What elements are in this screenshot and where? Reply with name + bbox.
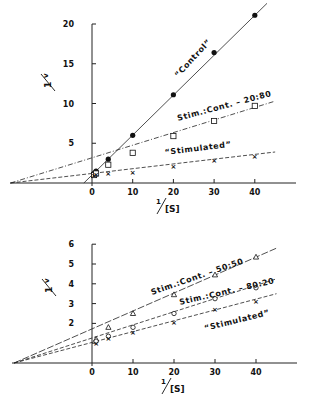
svg-text:[S]: [S] [165,204,180,214]
x-tick-label: 30 [209,368,221,377]
data-point-x: × [130,329,136,337]
data-point-open-square [171,133,176,138]
data-point-open-circle [172,311,176,315]
y-tick-label: 20 [63,20,75,29]
label-control: “Control” [173,37,213,79]
bottom-chart: 01020304023456 ×××××× 1 v 1 [S] Stim.:Co… [12,240,297,394]
data-point-x: × [211,157,217,165]
bottom-x-axis-label: 1 [S] [161,378,185,394]
top-chart: 0102030405101520 ××××××× 1 v 1 [S] “Cont… [10,3,296,214]
label-stim-cont-20-80: Stim.:Cont. – 20:80 [176,89,272,123]
data-point-x: × [93,171,99,179]
top-x-axis-label: 1 [S] [156,198,180,214]
top-y-axis-label: 1 v [41,73,55,91]
svg-text:1: 1 [156,198,161,206]
y-tick-label: 5 [68,139,74,148]
data-point-x: × [252,153,258,161]
data-point-x: × [171,319,177,327]
data-point-x: × [212,306,218,314]
svg-text:v: v [42,73,50,78]
fit-line [14,294,276,363]
y-tick-label: 3 [68,300,74,309]
x-tick-label: 20 [168,188,180,197]
fit-line [11,152,276,183]
fit-line [11,101,276,183]
y-tick-label: 10 [63,100,75,109]
x-tick-label: 0 [89,368,95,377]
data-point-open-square [252,103,257,108]
data-point-open-square [106,162,111,167]
data-point-filled-circle [130,133,135,138]
bottom-y-axis-label: 1 v [42,278,56,296]
data-point-filled-circle [106,157,111,162]
data-point-x: × [130,169,136,177]
svg-text:[S]: [S] [170,384,185,394]
y-tick-label: 5 [68,260,74,269]
x-tick-label: 0 [89,188,95,197]
data-point-x: × [93,340,99,348]
data-point-filled-circle [171,92,176,97]
x-tick-label: 10 [127,368,139,377]
y-tick-label: 6 [68,240,74,249]
data-point-x: × [105,170,111,178]
data-point-x: × [170,163,176,171]
y-tick-label: 2 [68,319,74,328]
bottom-axes: 01020304023456 [12,240,297,377]
data-point-filled-circle [212,50,217,55]
top-fit-lines [11,3,276,183]
x-tick-label: 40 [250,368,262,377]
data-point-open-triangle [106,325,111,330]
y-tick-label: 15 [63,60,75,69]
x-tick-label: 20 [168,368,180,377]
figure: 0102030405101520 ××××××× 1 v 1 [S] “Cont… [0,0,309,402]
label-stimulated: “Stimulated” [164,140,232,157]
y-tick-label: 4 [68,280,74,289]
data-point-open-square [130,150,135,155]
data-point-x: × [105,335,111,343]
x-tick-label: 10 [127,188,139,197]
data-point-open-square [212,118,217,123]
data-point-x: × [253,298,259,306]
svg-text:v: v [43,278,51,283]
x-tick-label: 40 [249,188,261,197]
x-tick-label: 30 [209,188,221,197]
svg-text:1: 1 [161,378,166,386]
data-point-filled-circle [252,13,257,18]
